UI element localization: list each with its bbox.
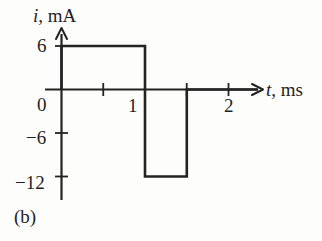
x-axis-unit: ms (281, 79, 303, 100)
x-axis-separator: , (271, 79, 281, 100)
y-tick-label-6: 6 (37, 36, 47, 55)
x-axis-label: t, ms (266, 80, 303, 99)
y-tick-label-neg6: −6 (26, 128, 46, 147)
figure-caption: (b) (14, 207, 36, 226)
y-axis-label: i, mA (33, 6, 76, 25)
figure-panel: i, mA t, ms 6 0 −6 −12 1 2 (b) (0, 0, 322, 241)
y-axis-separator: , (38, 5, 48, 26)
x-tick-label-1: 1 (128, 96, 138, 115)
y-tick-label-0: 0 (37, 95, 47, 114)
waveform-plot (0, 0, 322, 241)
y-axis-unit: mA (48, 5, 77, 26)
x-tick-label-2: 2 (224, 96, 234, 115)
y-tick-label-neg12: −12 (15, 173, 45, 192)
